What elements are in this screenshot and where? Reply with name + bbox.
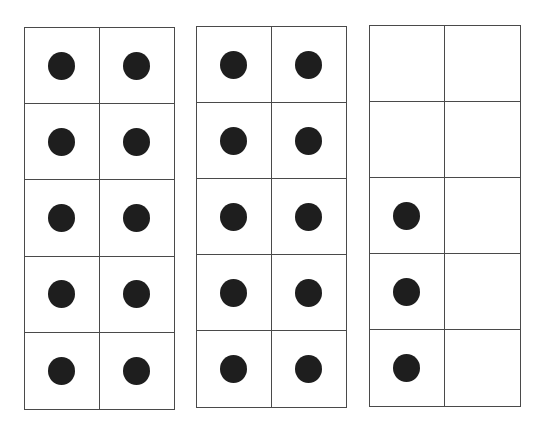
counter-dot-icon bbox=[393, 202, 420, 230]
frame-cell bbox=[445, 102, 520, 178]
counter-dot-icon bbox=[393, 354, 420, 382]
frame-cell bbox=[197, 255, 272, 331]
frame-cell bbox=[370, 178, 445, 254]
frame-cell bbox=[370, 26, 445, 102]
counter-dot-icon bbox=[393, 278, 420, 306]
frame-cell bbox=[25, 180, 100, 256]
frame-cell bbox=[445, 26, 520, 102]
counter-dot-icon bbox=[123, 128, 150, 156]
frame-cell bbox=[445, 254, 520, 330]
counter-dot-icon bbox=[220, 355, 247, 383]
counter-dot-icon bbox=[295, 279, 322, 307]
frame-cell bbox=[272, 255, 347, 331]
counter-dot-icon bbox=[220, 127, 247, 155]
frame-cell bbox=[25, 333, 100, 409]
frame-cell bbox=[445, 330, 520, 406]
frame-cell bbox=[100, 180, 175, 256]
counter-dot-icon bbox=[220, 203, 247, 231]
counter-dot-icon bbox=[123, 280, 150, 308]
counter-dot-icon bbox=[48, 204, 75, 232]
frame-cell bbox=[25, 257, 100, 333]
counter-dot-icon bbox=[48, 280, 75, 308]
counter-dot-icon bbox=[295, 127, 322, 155]
frame-cell bbox=[272, 331, 347, 407]
frame-cell bbox=[25, 28, 100, 104]
counter-dot-icon bbox=[295, 51, 322, 79]
counter-dot-icon bbox=[123, 204, 150, 232]
counter-dot-icon bbox=[295, 355, 322, 383]
frame-cell bbox=[197, 27, 272, 103]
frame-cell bbox=[445, 178, 520, 254]
frame-cell bbox=[370, 330, 445, 406]
frame-cell bbox=[272, 103, 347, 179]
frame-cell bbox=[100, 104, 175, 180]
frame-cell bbox=[272, 27, 347, 103]
counter-dot-icon bbox=[123, 357, 150, 385]
counter-dot-icon bbox=[220, 51, 247, 79]
frame-cell bbox=[100, 28, 175, 104]
counter-dot-icon bbox=[123, 52, 150, 80]
frame-cell bbox=[197, 331, 272, 407]
frame-cell bbox=[100, 257, 175, 333]
ten-frame-3 bbox=[369, 25, 521, 407]
frame-cell bbox=[370, 254, 445, 330]
frame-cell bbox=[370, 102, 445, 178]
counter-dot-icon bbox=[48, 357, 75, 385]
frame-cell bbox=[272, 179, 347, 255]
frame-cell bbox=[197, 103, 272, 179]
counter-dot-icon bbox=[48, 52, 75, 80]
ten-frame-1 bbox=[24, 27, 175, 410]
counter-dot-icon bbox=[220, 279, 247, 307]
frame-cell bbox=[25, 104, 100, 180]
frame-cell bbox=[100, 333, 175, 409]
ten-frame-2 bbox=[196, 26, 347, 408]
counter-dot-icon bbox=[295, 203, 322, 231]
frame-cell bbox=[197, 179, 272, 255]
counter-dot-icon bbox=[48, 128, 75, 156]
